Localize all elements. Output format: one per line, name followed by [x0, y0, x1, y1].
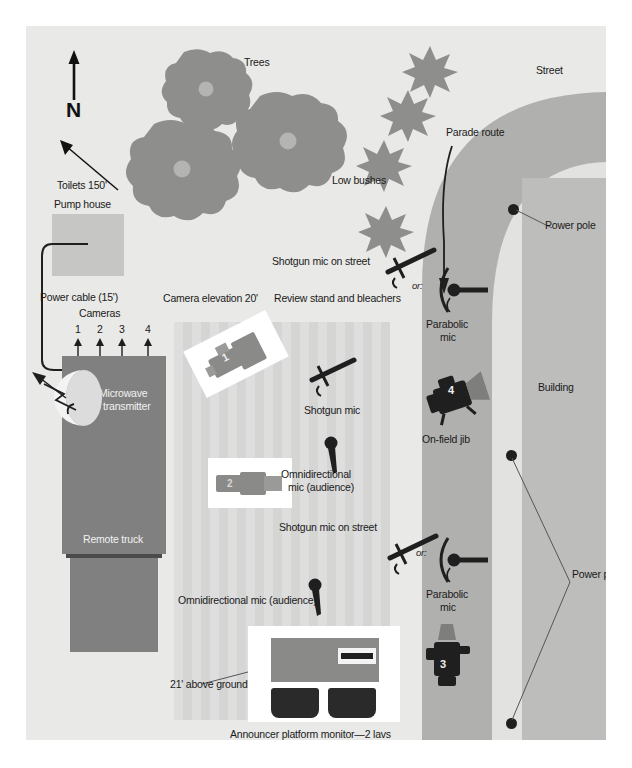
or-label-lower: or: [416, 547, 427, 560]
announcer-seat-left [271, 688, 319, 718]
parade-route-label: Parade route [446, 126, 504, 139]
camera-tick-label-1: 1 [75, 323, 81, 336]
camera-2-number: 2 [227, 478, 233, 489]
tree-right [222, 88, 362, 218]
camera-3-icon[interactable] [420, 622, 476, 696]
power-cable-label: Power cable (15') [40, 291, 118, 304]
camera-feed-arrows-icon [70, 336, 160, 358]
power-pole-upper-label: Power pole [545, 219, 605, 232]
announcer-seat-right [328, 688, 376, 718]
camera-4-number: 4 [448, 384, 454, 396]
power-poles-leader-lines [510, 454, 580, 726]
announcer-platform-label: Announcer platform monitor—2 lavs [230, 728, 391, 740]
camera-2-icon[interactable] [214, 470, 288, 498]
camera-elevation-label: Camera elevation 20' [163, 292, 258, 305]
site-plan-screenshot: Building Street N Toilets 150' Trees [0, 0, 632, 768]
parabolic-mic-upper-label-line1: Parabolic [426, 318, 468, 331]
pump-house-label: Pump house [54, 198, 111, 211]
monitor-label-bar [341, 653, 373, 659]
review-stand-label: Review stand and bleachers [274, 292, 401, 305]
camera-tick-label-4: 4 [145, 323, 151, 336]
remote-truck-label: Remote truck [83, 533, 143, 546]
north-label: N [66, 98, 81, 122]
on-field-jib-label: On-field jib [422, 433, 470, 446]
parabolic-mic-lower-label-line1: Parabolic [426, 588, 468, 601]
parade-route-arrow-icon [430, 142, 490, 302]
omni-mic-upper-label-line1: Omnidirectional [281, 468, 351, 481]
omni-mic-lower-label: Omnidirectional mic (audience) [178, 594, 317, 607]
building-label: Building [538, 381, 574, 394]
parabolic-mic-lower-label-line2: mic [440, 601, 456, 614]
parabolic-mic-lower-icon[interactable] [434, 534, 494, 590]
street-label: Street [536, 64, 563, 77]
omni-mic-upper-label-line2: mic (audience) [288, 481, 354, 494]
shotgun-mic-icon[interactable] [308, 352, 364, 402]
shotgun-mic-street-lower-label: Shotgun mic on street [279, 521, 377, 534]
height-above-ground-label: 21' above ground [170, 678, 248, 691]
microwave-beam-arrow-icon [26, 364, 90, 426]
camera-3-number: 3 [440, 658, 446, 670]
camera-tick-label-2: 2 [97, 323, 103, 336]
power-poles-label-line1: Power poles [572, 568, 606, 581]
shotgun-mic-label: Shotgun mic [304, 404, 360, 417]
diagram-canvas: Building Street N Toilets 150' Trees [26, 26, 606, 740]
shotgun-mic-street-upper-label: Shotgun mic on street [272, 255, 370, 268]
parabolic-mic-upper-label-line2: mic [440, 331, 456, 344]
or-label-upper: or: [412, 280, 423, 293]
low-bushes-label: Low bushes [332, 174, 386, 187]
toilets-label: Toilets 150' [57, 179, 107, 192]
camera-tick-label-3: 3 [119, 323, 125, 336]
remote-truck-cab [70, 558, 158, 652]
cameras-header-label: Cameras [79, 307, 120, 320]
trees-label: Trees [244, 56, 269, 69]
